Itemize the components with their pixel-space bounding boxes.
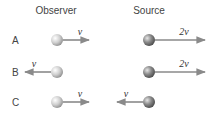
observer-velocity-label: v <box>78 26 83 37</box>
observer-header: Observer <box>35 5 77 16</box>
doppler-diagram: Observer Source Av2vBv2vCvv <box>0 0 213 119</box>
observer-velocity-label: v <box>32 58 37 69</box>
row-c: Cvv <box>12 88 155 108</box>
source-velocity-label: 2v <box>179 58 189 69</box>
source-header: Source <box>133 5 165 16</box>
row-label: B <box>12 67 19 78</box>
row-label: C <box>12 97 19 108</box>
source-velocity-label: 2v <box>179 26 189 37</box>
row-b: Bv2v <box>12 58 205 78</box>
source-ball <box>143 66 155 78</box>
observer-ball <box>51 96 63 108</box>
row-a: Av2v <box>12 26 205 46</box>
row-label: A <box>12 35 19 46</box>
source-ball <box>143 96 155 108</box>
observer-velocity-label: v <box>78 88 83 99</box>
observer-ball <box>51 66 63 78</box>
source-ball <box>143 34 155 46</box>
source-velocity-label: v <box>124 88 129 99</box>
observer-ball <box>51 34 63 46</box>
